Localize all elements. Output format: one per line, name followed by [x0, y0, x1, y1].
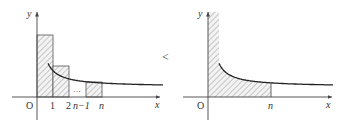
x-axis-label: x — [325, 99, 331, 110]
tick-label-n: n — [99, 100, 104, 111]
y-axis-label: y — [197, 8, 203, 19]
y-axis-label: y — [26, 8, 32, 19]
tick-label-n-1: n−1 — [73, 100, 90, 111]
origin-label: O — [26, 100, 33, 111]
rect-0-1 — [37, 35, 53, 97]
origin-label: O — [197, 100, 204, 111]
ellipsis: … — [73, 85, 81, 94]
right-panel: y O x n — [183, 8, 333, 120]
figure: y O x 1 2 n−1 n … < y O x n — [0, 0, 339, 129]
rect-1-2 — [53, 66, 69, 97]
less-than-symbol: < — [162, 50, 169, 64]
shaded-area — [208, 12, 271, 97]
rect-n-1-n — [86, 82, 102, 97]
tick-label-n: n — [268, 100, 273, 111]
tick-label-1: 1 — [50, 100, 55, 111]
x-axis-label: x — [154, 99, 160, 110]
left-panel: y O x 1 2 n−1 n … — [12, 8, 163, 120]
tick-label-2: 2 — [66, 100, 71, 111]
